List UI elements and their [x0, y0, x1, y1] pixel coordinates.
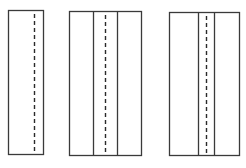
panel-outline [70, 12, 142, 156]
diagram-canvas [0, 0, 246, 168]
panel-outline [9, 11, 44, 155]
panel-outline [170, 13, 240, 156]
panel-3 [170, 13, 240, 156]
panel-1 [9, 11, 44, 155]
fold-diagram [0, 0, 246, 168]
panel-2 [70, 12, 142, 156]
